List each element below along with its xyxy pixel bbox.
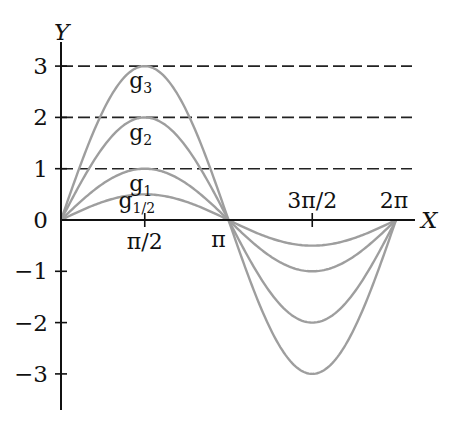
x-tick-label: π/2 (127, 229, 163, 254)
y-tick-label: 3 (33, 53, 48, 79)
y-tick-label: −1 (14, 258, 48, 284)
curve-label-g2: g2 (129, 120, 152, 148)
curve-label-g1: g1 (129, 171, 152, 199)
x-axis-label: X (419, 207, 439, 233)
x-tick-label: 2π (380, 188, 408, 213)
y-axis-label: Y (54, 19, 72, 45)
y-tick-label: 2 (33, 104, 48, 130)
y-tick-label: 0 (33, 207, 48, 233)
axes (61, 42, 415, 410)
sine-family-chart: 3210−1−2−3YXπ/2π3π/22πg3g2g1g1/2 (0, 0, 451, 422)
y-tick-label: −2 (14, 310, 48, 336)
y-tick-label: 1 (33, 156, 48, 182)
y-tick-label: −3 (14, 361, 48, 387)
curve-label-g3: g3 (129, 68, 152, 96)
x-tick-label: 3π/2 (287, 188, 337, 213)
reference-lines (61, 66, 412, 169)
x-tick-label: π (211, 227, 225, 252)
